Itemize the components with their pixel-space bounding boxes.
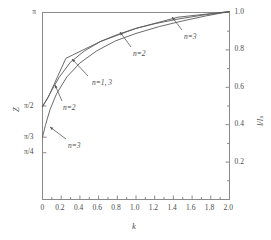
x-tick-label: 2.0 <box>224 204 233 212</box>
y-left-tick-label: π/3 <box>24 133 34 141</box>
series-annotation: n=2 <box>133 50 146 58</box>
y-right-tick-label: 1.0 <box>235 8 244 16</box>
y-right-tick-label: 0.2 <box>235 158 244 166</box>
y-axis-left-title: Z <box>12 107 21 112</box>
x-tick-label: 1.0 <box>130 204 139 212</box>
x-tick-label: 0.6 <box>93 204 102 212</box>
x-tick-label: 1.8 <box>205 204 214 212</box>
y-axis-left-ticks <box>43 13 47 153</box>
x-tick-label: 0.2 <box>55 204 64 212</box>
y-right-tick-label: 0.8 <box>235 45 244 53</box>
x-tick-label: 1.6 <box>186 204 195 212</box>
y-left-tick-label: π/2 <box>24 102 34 110</box>
data-series-group <box>43 12 230 138</box>
series-annotation: n=3 <box>184 33 197 41</box>
x-tick-label: 0.4 <box>74 204 83 212</box>
series-annotation: n=2 <box>63 104 76 112</box>
series-annotation: n=1, 3 <box>92 79 112 87</box>
x-tick-label: 1.4 <box>167 204 176 212</box>
y-right-tick-label: 0.4 <box>235 120 244 128</box>
y-axis-right-title: l/lₛ <box>256 116 265 126</box>
x-tick-label: 0 <box>41 204 45 212</box>
x-axis-title: k <box>132 222 136 231</box>
y-left-tick-label: π <box>32 8 36 16</box>
x-tick-label: 0.8 <box>111 204 120 212</box>
x-axis-ticks <box>43 196 230 200</box>
chart-figure: 00.20.40.60.81.01.21.41.61.82.0 ππ/2π/3π… <box>0 0 271 240</box>
y-right-tick-label: 0.6 <box>235 83 244 91</box>
y-axis-right-ticks <box>226 13 230 200</box>
series-annotation: n=3 <box>68 142 81 150</box>
y-left-tick-label: π/4 <box>24 148 34 156</box>
x-tick-label: 1.2 <box>149 204 158 212</box>
